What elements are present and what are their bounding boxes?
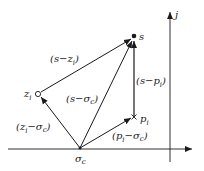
imaginary-axis-label: j: [173, 9, 178, 20]
point-s-label: s: [139, 31, 144, 42]
pole-zero-vector-diagram: j s zi pi σc (s−zi) (s−σc) (s−pi) (zi−σc…: [0, 0, 204, 171]
point-s-dot-icon: [132, 34, 137, 39]
point-pi-label: pi: [140, 113, 149, 127]
label-pi-minus-sigmac: (pi−σc): [112, 130, 148, 144]
label-s-minus-pi: (s−pi): [136, 75, 166, 89]
zero-open-circle-icon: [35, 91, 40, 96]
sigma-c-dot-icon: [79, 147, 82, 150]
point-zi-label: zi: [23, 88, 32, 102]
vector-s-minus-zi: [41, 39, 131, 92]
label-s-minus-sigmac: (s−σc): [66, 93, 98, 106]
point-sigmac-label: σc: [75, 153, 86, 166]
label-zi-minus-sigmac: (zi−σc): [16, 121, 51, 135]
label-s-minus-zi: (s−zi): [50, 53, 79, 67]
